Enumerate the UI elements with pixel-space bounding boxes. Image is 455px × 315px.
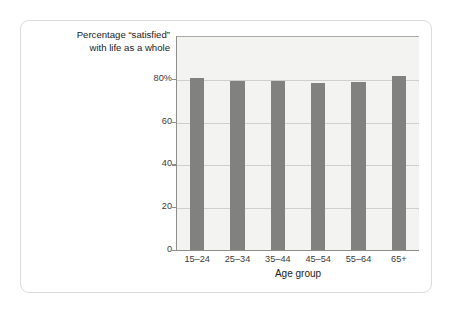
caption-line-2: with life as a whole [10,41,170,54]
y-tick-label-wrap-60: 60 [130,116,172,128]
chart-caption: Percentage “satisfied” with life as a wh… [10,28,170,54]
y-tick-mark-80 [172,79,176,80]
y-tick-label-40: 40 [162,158,172,168]
x-axis-title: Age group [177,268,419,279]
y-tick-label-80: 80% [154,73,172,83]
y-tick-label-wrap-0: 0 [130,244,172,256]
y-tick-label-wrap-80: 80% [130,73,172,85]
bar-55–64 [351,82,366,250]
bar-45–54 [311,83,326,250]
x-tick-label-65+: 65+ [374,254,424,264]
caption-line-1: Percentage “satisfied” [10,28,170,41]
bar-15–24 [190,78,205,250]
bar-35–44 [271,81,286,250]
y-tick-mark-40 [172,164,176,165]
bar-65+ [392,76,407,250]
y-tick-mark-60 [172,122,176,123]
y-tick-label-wrap-20: 20 [130,201,172,213]
y-tick-mark-0 [172,250,176,251]
bars-group [177,36,419,250]
y-tick-label-20: 20 [162,201,172,211]
y-tick-label-wrap-40: 40 [130,158,172,170]
y-tick-label-0: 0 [167,244,172,254]
figure-root: Percentage “satisfied” with life as a wh… [0,0,455,315]
bar-25–34 [230,81,245,250]
x-axis-spine [176,250,419,251]
y-tick-mark-20 [172,207,176,208]
y-tick-label-60: 60 [162,116,172,126]
